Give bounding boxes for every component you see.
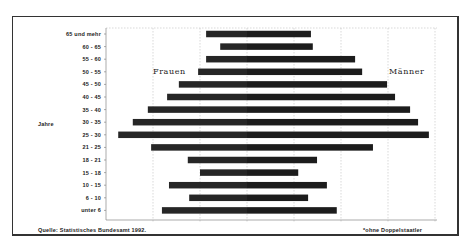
bar-frauen [200, 169, 247, 176]
bar-maenner [247, 69, 362, 76]
bar-maenner [247, 195, 308, 202]
age-group-label: 65 und mehr [66, 31, 102, 37]
bar-frauen [206, 31, 247, 38]
age-group-label: 50 - 55 [82, 69, 101, 75]
bar-maenner [247, 157, 317, 164]
bar-maenner [247, 207, 337, 214]
source-note: Quelle: Statistisches Bundesamt 1992. [38, 227, 147, 233]
bar-maenner [247, 119, 418, 126]
age-group-label: 60 - 65 [82, 44, 101, 50]
bar-frauen [162, 207, 247, 214]
y-axis-title: Jahre [38, 121, 54, 127]
bar-maenner [247, 106, 410, 113]
bar-frauen [167, 94, 247, 101]
bar-frauen [206, 56, 247, 63]
age-group-label: 21 - 25 [82, 144, 101, 150]
age-group-label: 25 - 30 [82, 132, 101, 138]
bar-frauen [118, 132, 247, 139]
bar-maenner [247, 56, 355, 63]
age-group-labels: 65 und mehr60 - 6555 - 6050 - 5545 - 504… [66, 31, 106, 213]
age-group-label: 18 - 21 [82, 157, 101, 163]
frauen-label: Frauen [153, 67, 186, 76]
age-group-label: 35 - 40 [82, 107, 101, 113]
population-pyramid-chart: 65 und mehr60 - 6555 - 6050 - 5545 - 504… [0, 0, 471, 245]
bar-maenner [247, 182, 327, 189]
footnote: *ohne Doppelstaatler [363, 227, 423, 233]
bar-maenner [247, 144, 373, 151]
bar-frauen [148, 106, 247, 113]
bar-maenner [247, 132, 429, 139]
bar-maenner [247, 169, 298, 176]
bar-frauen [198, 69, 247, 76]
bar-maenner [247, 31, 311, 38]
bar-frauen [188, 157, 247, 164]
bars [118, 31, 429, 214]
bar-maenner [247, 94, 395, 101]
bar-maenner [247, 81, 387, 88]
bar-frauen [179, 81, 247, 88]
age-group-label: unter 6 [81, 207, 101, 213]
bar-maenner [247, 43, 313, 50]
bar-frauen [169, 182, 247, 189]
age-group-label: 40 - 45 [82, 94, 101, 100]
age-group-label: 45 - 50 [82, 81, 101, 87]
age-group-label: 55 - 60 [82, 56, 101, 62]
bar-frauen [133, 119, 247, 126]
bar-frauen [220, 43, 247, 50]
age-group-label: 10 - 15 [82, 182, 101, 188]
bar-frauen [151, 144, 247, 151]
age-group-label: 6 - 10 [86, 195, 101, 201]
age-group-label: 15 - 18 [82, 170, 101, 176]
bar-frauen [189, 195, 247, 202]
age-group-label: 30 - 35 [82, 119, 101, 125]
maenner-label: Männer [389, 67, 424, 76]
